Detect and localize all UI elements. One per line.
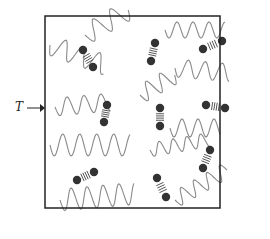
molecule (100, 101, 111, 126)
molecule (199, 37, 226, 53)
photon-wave (165, 22, 225, 38)
molecule (147, 39, 159, 65)
molecule-photon-box-diagram (0, 0, 270, 239)
molecule (202, 101, 229, 112)
molecule (73, 168, 98, 184)
arrow-icon (27, 104, 45, 112)
photon-wave (59, 183, 136, 211)
molecule (199, 146, 214, 172)
photon-wave (136, 67, 180, 103)
container-box (45, 16, 220, 208)
molecule (156, 104, 164, 130)
photon-wave (50, 134, 130, 156)
photon-wave (80, 1, 133, 43)
photon-wave (54, 93, 110, 116)
molecule (153, 174, 170, 201)
photon-wave (174, 59, 230, 82)
photon-wave (170, 119, 220, 137)
molecule (79, 46, 97, 71)
photon-wave (47, 36, 110, 75)
photon-wave (149, 133, 210, 157)
